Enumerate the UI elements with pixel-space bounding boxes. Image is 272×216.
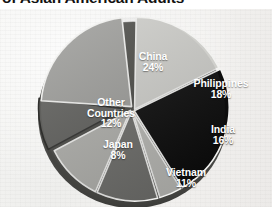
- page-title: of Asian American Adults: [2, 0, 184, 7]
- pie-container: China 24% Philippines 18% India 16% Viet…: [37, 9, 229, 207]
- pie-svg: [37, 9, 229, 207]
- pie-slice-china[interactable]: [41, 18, 131, 107]
- chart-title-clipped: of Asian American Adults: [0, 0, 272, 9]
- pie-chart-figure: of Asian American Adults: [0, 0, 272, 216]
